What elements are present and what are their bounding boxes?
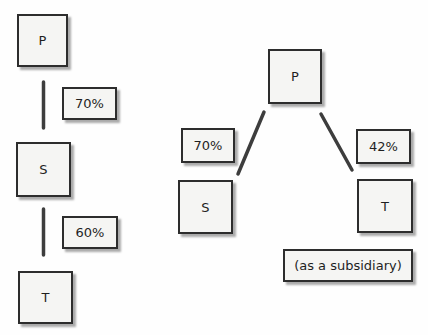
left-edge-s-t-label: 60% [62,216,118,249]
ownership-structure-figure: P 70% S 60% T P 70% 42% S T (as a subsid… [0,0,428,335]
edge-line-p-t-diagonal [321,114,352,170]
left-node-p: P [17,14,68,67]
right-node-t-subsidiary-note: (as a subsidiary) [283,249,413,282]
right-node-t: T [357,179,413,233]
right-node-p: P [268,49,322,104]
left-node-t: T [18,271,73,324]
right-edge-p-s-label: 70% [181,128,235,163]
left-edge-p-s-label: 70% [62,87,117,120]
right-node-s: S [178,180,233,234]
right-edge-p-t-label: 42% [356,129,411,164]
left-node-s: S [16,142,71,197]
edge-line-p-s-diagonal [238,112,264,174]
